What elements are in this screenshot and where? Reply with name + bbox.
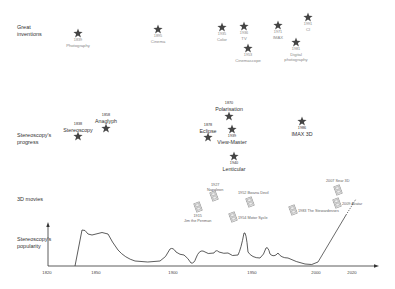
- popularity-projection: [346, 199, 356, 215]
- popularity-curve: [75, 230, 318, 266]
- x-axis-tick-label: 1900: [168, 270, 177, 275]
- x-axis-tick-label: 2000: [311, 270, 320, 275]
- x-axis-tick-label: 1820: [42, 270, 51, 275]
- x-axis-tick-label: 1850: [91, 270, 100, 275]
- x-axis-arrow-icon: [374, 264, 379, 267]
- popularity-chart: [0, 0, 395, 289]
- popularity-trend: [318, 215, 346, 262]
- y-axis-arrow-icon: [46, 222, 49, 227]
- x-axis-tick-label: 2020: [347, 270, 356, 275]
- x-axis-tick-label: 1950: [247, 270, 256, 275]
